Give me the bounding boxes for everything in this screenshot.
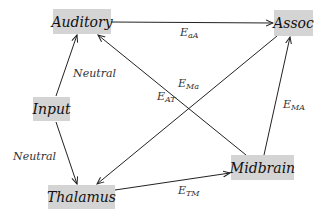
edge-label-eat: EAT: [157, 90, 176, 104]
node-input-label: Input: [32, 101, 70, 117]
edge-thalamus-midbrain: [115, 173, 230, 190]
edge-label-ema-upper: EMA: [283, 98, 305, 112]
edge-label-ema-lower: EMa: [178, 77, 199, 91]
diagram-canvas: Auditory Assoc Input Thalamus Midbrain E…: [0, 0, 327, 216]
edge-label-neutral-top: Neutral: [73, 67, 116, 80]
edge-label-eaa: EaA: [180, 26, 199, 40]
edge-input-thalamus: [56, 122, 77, 184]
node-assoc: Assoc: [274, 10, 313, 36]
edge-auditory-assoc: [111, 22, 273, 23]
edge-label-etm: ETM: [178, 184, 200, 198]
edge-midbrain-assoc: [264, 37, 290, 155]
node-auditory-label: Auditory: [51, 14, 112, 30]
edge-input-auditory: [56, 35, 77, 96]
node-midbrain: Midbrain: [231, 155, 294, 180]
node-assoc-label: Assoc: [273, 15, 314, 31]
node-auditory: Auditory: [53, 9, 111, 34]
edge-label-neutral-bottom: Neutral: [13, 150, 56, 163]
node-midbrain-label: Midbrain: [230, 160, 295, 176]
node-thalamus-label: Thalamus: [47, 189, 116, 205]
node-thalamus: Thalamus: [48, 185, 115, 209]
node-input: Input: [33, 97, 70, 121]
